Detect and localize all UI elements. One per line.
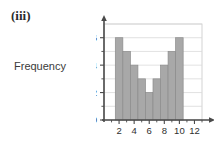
bar-3 [123,51,131,120]
y-axis-tick-labels: 0246 [96,32,97,125]
figure-container: (iii) Frequency 24681012 0246 [0,0,217,159]
x-tick-label-8: 8 [162,125,167,136]
bar-chart-svg: 24681012 0246 [96,14,214,136]
bar-5 [138,79,146,120]
bar-4 [130,65,138,120]
x-tick-label-10: 10 [174,125,185,136]
bar-6 [145,93,153,120]
y-tick-label-4: 4 [96,60,97,71]
bar-8 [161,65,169,120]
bar-7 [153,79,161,120]
bar-10 [176,38,184,120]
bar-9 [168,51,176,120]
x-tick-label-6: 6 [147,125,152,136]
y-axis-arrow [101,15,107,21]
y-tick-label-0: 0 [96,114,97,125]
x-axis-tick-labels: 24681012 [116,125,199,136]
x-tick-label-2: 2 [116,125,121,136]
x-tick-label-12: 12 [189,125,200,136]
x-axis-arrow [209,117,214,123]
y-tick-label-2: 2 [96,87,97,98]
y-axis-title: Frequency [14,61,66,72]
x-tick-label-4: 4 [132,125,137,136]
plot-area: 24681012 0246 [96,14,214,136]
bar-2 [115,38,123,120]
part-label: (iii) [11,9,31,22]
y-tick-label-6: 6 [96,32,97,43]
